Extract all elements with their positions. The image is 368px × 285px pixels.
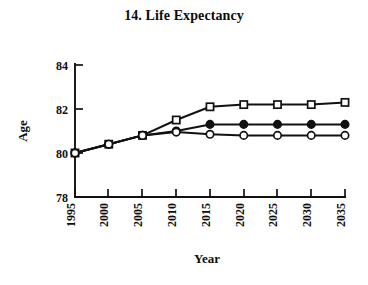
data-point-square-series-2020 [240, 101, 247, 108]
y-axis-tick-labels: 84 82 80 78 [56, 59, 68, 205]
data-point-open-circle-series-2030 [308, 132, 315, 139]
data-point-square-series-2035 [341, 99, 348, 106]
y-tick-label-80: 80 [56, 147, 68, 161]
data-point-open-circle-series-2010 [173, 128, 180, 135]
data-point-filled-circle-series-2035 [341, 121, 348, 128]
data-point-filled-circle-series-2020 [240, 121, 247, 128]
x-tick-label-2000: 2000 [97, 203, 111, 227]
data-point-open-circle-series-2025 [274, 132, 281, 139]
data-point-open-circle-series-1995 [71, 149, 78, 156]
data-point-square-series-2030 [308, 101, 315, 108]
data-point-square-series-2010 [173, 116, 180, 123]
x-tick-label-2015: 2015 [199, 203, 213, 227]
data-point-open-circle-series-2015 [206, 131, 213, 138]
series-layer [71, 99, 348, 157]
x-tick-label-2035: 2035 [334, 203, 348, 227]
x-axis-title: Year [194, 251, 220, 266]
figure-container: 14. Life Expectancy 84 82 80 78 Age [0, 0, 368, 285]
data-point-open-circle-series-2020 [240, 132, 247, 139]
y-axis-ticks [75, 65, 83, 197]
y-tick-label-82: 82 [56, 103, 68, 117]
data-point-filled-circle-series-2015 [206, 121, 213, 128]
x-tick-label-2030: 2030 [300, 203, 314, 227]
x-axis-tick-labels: 1995 2000 2005 2010 2015 2020 2025 2030 … [64, 203, 348, 227]
data-point-filled-circle-series-2030 [308, 121, 315, 128]
x-tick-label-2010: 2010 [165, 203, 179, 227]
line-chart: 84 82 80 78 Age 1995 2000 2005 2010 2015 [0, 0, 368, 285]
y-tick-label-84: 84 [56, 59, 68, 73]
y-tick-label-78: 78 [56, 191, 68, 205]
data-point-open-circle-series-2035 [341, 132, 348, 139]
x-tick-label-2005: 2005 [131, 203, 145, 227]
data-point-square-series-2015 [206, 103, 213, 110]
data-point-filled-circle-series-2025 [274, 121, 281, 128]
data-point-open-circle-series-2000 [105, 141, 112, 148]
x-tick-label-2025: 2025 [266, 203, 280, 227]
data-point-open-circle-series-2005 [139, 132, 146, 139]
x-axis-ticks [75, 189, 345, 197]
x-tick-label-2020: 2020 [233, 203, 247, 227]
x-tick-label-1995: 1995 [64, 203, 78, 227]
y-axis-title: Age [15, 120, 30, 142]
data-point-square-series-2025 [274, 101, 281, 108]
